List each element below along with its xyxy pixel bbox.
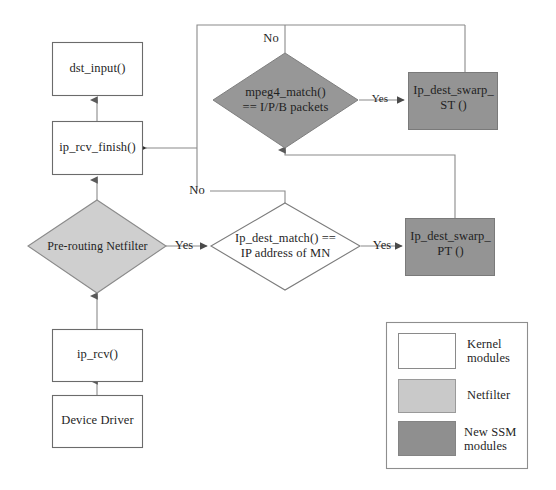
node-ip-dest-swarp-st[interactable] bbox=[409, 73, 498, 130]
node-mpeg4-match[interactable] bbox=[213, 53, 358, 148]
node-pre-routing-netfilter[interactable] bbox=[28, 200, 166, 293]
legend-swatch-kernel bbox=[399, 334, 456, 369]
node-device-driver[interactable] bbox=[53, 396, 143, 448]
edge-swarp-pt-to-mpeg4 bbox=[285, 150, 455, 218]
node-ip-dest-match[interactable] bbox=[211, 203, 360, 290]
legend-swatch-ssm bbox=[399, 422, 456, 456]
node-ip-rcv[interactable] bbox=[53, 330, 143, 382]
node-ip-dest-swarp-pt[interactable] bbox=[406, 219, 495, 276]
node-ip-rcv-finish[interactable] bbox=[53, 122, 143, 175]
flowchart-canvas: dst_input() ip_rcv_finish() Pre-routing … bbox=[0, 0, 556, 490]
legend-swatch-netfilter bbox=[399, 380, 456, 413]
edge-ip-dest-match-no-to-trunk bbox=[210, 191, 285, 203]
node-dst-input[interactable] bbox=[53, 43, 143, 96]
flowchart-graphics bbox=[0, 0, 556, 490]
